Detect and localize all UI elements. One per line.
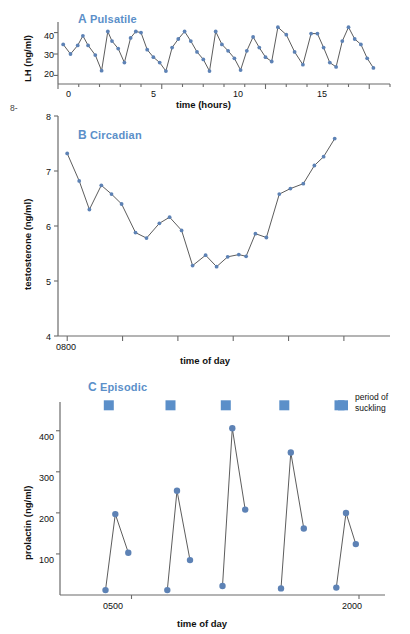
panel-c-series-line (281, 453, 304, 589)
panel-b-data-point (88, 208, 92, 212)
panel-a-data-point (264, 55, 268, 59)
panel-c-data-point (278, 585, 284, 591)
panel-a-data-point (226, 49, 230, 53)
panel-b-data-point (158, 221, 162, 225)
panel-a-data-point (276, 25, 280, 29)
panel-b-data-point (134, 231, 138, 235)
panel-a-data-point (93, 53, 97, 57)
panel-a-data-point (195, 50, 199, 54)
panel-b-data-point (110, 192, 114, 196)
panel-a-data-point (220, 43, 224, 47)
panel-a-data-point (293, 50, 297, 54)
panel-b-data-point (333, 137, 337, 141)
panel-a-data-point (340, 39, 344, 43)
panel-a-series-line (63, 27, 373, 71)
suckling-period-marker (166, 400, 176, 410)
panel-a-data-point (158, 61, 162, 65)
panel-a-data-point (106, 30, 110, 34)
panel-c-data-point (242, 506, 248, 512)
panel-b-data-point (204, 253, 208, 257)
panel-b-data-point (65, 152, 69, 156)
panel-c-data-point (353, 541, 359, 547)
panel-b-series-line (67, 139, 335, 267)
panel-c-data-point (102, 587, 108, 593)
panel-c-data-point (164, 587, 170, 593)
panel-a-data-point (233, 56, 237, 60)
panel-a-data-point (328, 61, 332, 65)
panel-b-data-point (244, 254, 248, 258)
panel-c-data-point (333, 584, 339, 590)
panel-a-data-point (245, 49, 249, 53)
panel-c-data-point (343, 510, 349, 516)
panel-b-data-point (180, 229, 184, 233)
panel-c-series-line (106, 514, 129, 590)
panel-a-data-point (372, 66, 376, 70)
panel-a-plot (0, 0, 410, 110)
panel-a-data-point (123, 61, 127, 65)
panel-a-data-point (81, 34, 85, 38)
panel-a-data-point (152, 55, 156, 59)
panel-b-circadian: BCircadian testosterone (ng/ml) 8 7 6 5 … (0, 110, 410, 345)
panel-c-data-point (288, 449, 294, 455)
panel-a-data-point (176, 37, 180, 41)
panel-a-data-point (208, 69, 212, 73)
panel-b-data-point (277, 192, 281, 196)
panel-a-data-point (110, 39, 114, 43)
panel-a-data-point (365, 56, 369, 60)
panel-c-series-line (223, 428, 246, 586)
panel-a-data-point (139, 31, 143, 35)
panel-c-data-point (125, 550, 131, 556)
panel-b-data-point (301, 182, 305, 186)
panel-a-data-point (334, 65, 338, 69)
panel-a-data-point (129, 36, 133, 40)
panel-c-data-point (229, 425, 235, 431)
panel-a-data-point (61, 43, 65, 47)
panel-a-data-point (347, 25, 351, 29)
panel-b-data-point (120, 202, 124, 206)
panel-a-data-point (214, 30, 218, 34)
panel-a-data-point (189, 39, 193, 43)
panel-a-data-point (100, 69, 104, 73)
suckling-period-marker (279, 400, 289, 410)
panel-a-data-point (359, 43, 363, 47)
panel-a-data-point (301, 63, 305, 67)
suckling-period-marker (221, 400, 231, 410)
stray-margin-text: 8- (10, 103, 18, 113)
panel-b-data-point (254, 232, 258, 236)
panel-a-data-point (86, 44, 90, 48)
panel-a-data-point (257, 46, 261, 50)
panel-a-pulsatile: APulsatile LH (ng/ml) 40 30 20 0 5 10 15… (0, 0, 410, 110)
panel-c-data-point (187, 557, 193, 563)
panel-a-data-point (69, 52, 73, 56)
panel-b-plot (0, 110, 410, 345)
panel-b-data-point (99, 183, 103, 187)
panel-c-episodic: CEpisodic prolactin (ng/ml) 400 300 200 … (0, 380, 410, 634)
panel-c-series-line (336, 513, 356, 588)
panel-a-data-point (316, 32, 320, 36)
panel-b-data-point (265, 236, 269, 240)
panel-a-data-point (322, 46, 326, 50)
panel-b-data-point (77, 179, 81, 183)
panel-a-data-point (270, 60, 274, 64)
panel-b-data-point (215, 265, 219, 269)
legend-suckling-swatch (338, 400, 348, 410)
panel-a-data-point (284, 33, 288, 37)
panel-b-data-point (237, 253, 241, 257)
panel-b-data-point (226, 255, 230, 259)
panel-a-data-point (201, 58, 205, 62)
panel-a-data-point (239, 68, 243, 72)
panel-c-plot (0, 380, 410, 634)
panel-b-data-point (145, 236, 149, 240)
panel-a-data-point (76, 44, 80, 48)
panel-b-data-point (313, 164, 317, 168)
panel-a-data-point (116, 47, 120, 51)
panel-c-series-line (167, 491, 190, 590)
panel-b-data-point (289, 187, 293, 191)
panel-b-data-point (322, 155, 326, 159)
panel-b-data-point (168, 215, 172, 219)
panel-c-data-point (219, 583, 225, 589)
panel-a-data-point (145, 48, 149, 52)
panel-c-data-point (301, 525, 307, 531)
panel-a-data-point (134, 30, 138, 34)
panel-a-data-point (183, 30, 187, 34)
